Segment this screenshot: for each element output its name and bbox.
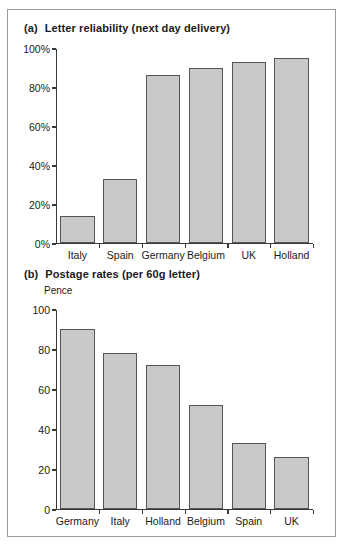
x-axis-tick	[185, 244, 186, 248]
y-axis-tick	[52, 509, 56, 510]
x-axis-tick	[313, 510, 314, 514]
figure-frame: (a)Letter reliability (next day delivery…	[7, 9, 336, 537]
x-axis-tick	[270, 510, 271, 514]
bar-italy	[103, 353, 137, 509]
x-axis-label-spain: Spain	[235, 515, 262, 527]
bar-holland	[146, 365, 180, 509]
chart-panel-b: (b)Postage rates (per 60g letter) Pence …	[8, 268, 335, 536]
bar-italy	[60, 216, 94, 243]
bar-spain	[232, 443, 266, 509]
x-axis-tick	[227, 244, 228, 248]
y-axis-tick-label: 80%	[29, 82, 50, 94]
x-axis-label-italy: Italy	[111, 515, 130, 527]
y-axis-tick	[52, 165, 56, 166]
y-axis-tick-label: 20	[38, 464, 50, 476]
y-axis-tick	[52, 204, 56, 205]
x-axis-tick	[313, 244, 314, 248]
x-axis-label-italy: Italy	[68, 249, 87, 261]
y-axis-tick	[52, 243, 56, 244]
y-axis-tick-label: 100	[32, 304, 50, 316]
y-axis-tick	[52, 87, 56, 88]
x-axis-label-belgium: Belgium	[187, 515, 225, 527]
y-axis-tick	[52, 469, 56, 470]
y-axis-tick-label: 0	[44, 504, 50, 516]
bar-germany	[146, 75, 180, 243]
panel-b-tag: (b)	[24, 268, 38, 280]
plot-area-a: 0%20%40%60%80%100%ItalySpainGermanyBelgi…	[56, 49, 313, 244]
y-axis-tick-label: 0%	[35, 238, 50, 250]
y-axis-tick-label: 60	[38, 384, 50, 396]
bar-belgium	[189, 405, 223, 509]
x-axis-tick	[99, 510, 100, 514]
x-axis-tick	[270, 244, 271, 248]
x-axis-tick	[99, 244, 100, 248]
x-axis-tick	[185, 510, 186, 514]
panel-a-title: (a)Letter reliability (next day delivery…	[24, 22, 230, 34]
y-axis-tick	[52, 126, 56, 127]
x-axis-label-germany: Germany	[141, 249, 184, 261]
panel-b-title: (b)Postage rates (per 60g letter)	[24, 268, 200, 280]
y-axis-tick	[52, 309, 56, 310]
y-axis-tick-label: 80	[38, 344, 50, 356]
x-axis-tick	[142, 510, 143, 514]
plot-area-b: 020406080100GermanyItalyHollandBelgiumSp…	[56, 310, 313, 510]
x-axis-label-belgium: Belgium	[187, 249, 225, 261]
x-axis-label-holland: Holland	[145, 515, 181, 527]
y-axis-tick-label: 40	[38, 424, 50, 436]
x-axis-label-spain: Spain	[107, 249, 134, 261]
y-axis-b	[56, 310, 57, 510]
y-axis-tick	[52, 349, 56, 350]
bar-germany	[60, 329, 94, 509]
y-axis-tick-label: 100%	[23, 43, 50, 55]
x-axis-tick	[142, 244, 143, 248]
y-axis-tick-label: 20%	[29, 199, 50, 211]
bar-holland	[274, 58, 308, 243]
y-axis-unit-label-b: Pence	[44, 285, 72, 296]
x-axis-label-holland: Holland	[274, 249, 310, 261]
x-axis-tick	[227, 510, 228, 514]
bar-belgium	[189, 68, 223, 244]
chart-panel-a: (a)Letter reliability (next day delivery…	[8, 22, 335, 272]
bar-spain	[103, 179, 137, 243]
x-axis-label-uk: UK	[241, 249, 256, 261]
panel-a-tag: (a)	[24, 22, 38, 34]
x-axis-label-germany: Germany	[56, 515, 99, 527]
panel-a-title-text: Letter reliability (next day delivery)	[45, 22, 230, 34]
y-axis-a	[56, 49, 57, 244]
y-axis-tick-label: 60%	[29, 121, 50, 133]
bar-uk	[232, 62, 266, 243]
panel-b-title-text: Postage rates (per 60g letter)	[45, 268, 200, 280]
bar-uk	[274, 457, 308, 509]
y-axis-tick	[52, 48, 56, 49]
y-axis-tick	[52, 389, 56, 390]
y-axis-tick	[52, 429, 56, 430]
x-axis-label-uk: UK	[284, 515, 299, 527]
y-axis-tick-label: 40%	[29, 160, 50, 172]
